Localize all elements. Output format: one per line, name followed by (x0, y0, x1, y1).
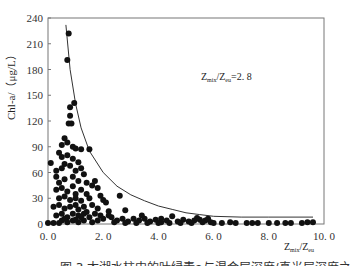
data-point (53, 212, 59, 218)
data-point (81, 204, 87, 210)
x-tick-label: 2. 0 (95, 230, 112, 242)
y-tick-label: 210 (27, 38, 44, 50)
data-point (64, 139, 70, 145)
figure-caption: 图 3 太湖水柱中的叶绿素a与混合层深度/真光层深度之比的关系图 (60, 258, 350, 266)
data-point (62, 161, 68, 167)
x-axis-label: Zmix/Zeu (284, 241, 314, 253)
data-point (67, 113, 73, 119)
annotation: Zmix/Zeu=2. 8 (201, 71, 252, 83)
data-point (299, 220, 305, 226)
data-point (304, 219, 310, 225)
data-point (111, 219, 117, 225)
data-point (86, 195, 92, 201)
data-point (310, 219, 316, 225)
data-point (75, 159, 81, 165)
y-tick-label: 240 (27, 12, 44, 24)
data-point (122, 220, 128, 226)
data-point (78, 165, 84, 171)
data-point (95, 185, 101, 191)
fit-curve (66, 25, 313, 217)
data-point (48, 160, 54, 166)
y-axis-ticks: 0306090120150180210240 (27, 12, 52, 230)
data-point (86, 146, 92, 152)
data-point (70, 156, 76, 162)
data-point (64, 188, 70, 194)
data-point (62, 194, 68, 200)
data-point (233, 220, 239, 226)
data-point (78, 187, 84, 193)
data-point (219, 220, 225, 226)
data-point (92, 178, 98, 184)
x-tick-label: 10. 0 (313, 230, 336, 242)
data-point (89, 219, 95, 225)
data-point (53, 174, 59, 180)
data-point (70, 174, 76, 180)
data-point (51, 204, 57, 210)
data-point (266, 220, 272, 226)
data-point (122, 207, 128, 213)
data-point (84, 209, 90, 215)
y-tick-label: 60 (32, 167, 44, 179)
data-point (117, 193, 123, 199)
data-point (64, 57, 70, 63)
y-tick-label: 150 (27, 89, 44, 101)
data-point (84, 180, 90, 186)
data-point (45, 220, 51, 226)
data-point (100, 216, 106, 222)
data-point (139, 212, 145, 218)
data-point (155, 220, 161, 226)
data-point (67, 204, 73, 210)
y-tick-label: 30 (32, 192, 44, 204)
data-point (56, 202, 62, 208)
data-point (78, 198, 84, 204)
data-point (62, 206, 68, 212)
data-point (205, 216, 211, 222)
data-point (59, 142, 65, 148)
data-point (73, 195, 79, 201)
data-point (56, 180, 62, 186)
data-point (73, 168, 79, 174)
data-point (106, 212, 112, 218)
data-point (89, 202, 95, 208)
data-point (68, 121, 74, 127)
data-points (45, 30, 316, 226)
data-point (227, 219, 233, 225)
data-point (133, 220, 139, 226)
data-point (144, 220, 150, 226)
y-tick-label: 180 (27, 64, 44, 76)
x-tick-label: 8. 0 (261, 230, 278, 242)
data-point (59, 211, 65, 217)
data-point (56, 195, 62, 201)
y-tick-label: 90 (32, 141, 44, 153)
data-point (92, 211, 98, 217)
data-point (166, 220, 172, 226)
data-point (70, 211, 76, 217)
data-point (244, 220, 250, 226)
data-point (59, 185, 65, 191)
data-point (78, 146, 84, 152)
data-point (274, 220, 280, 226)
data-point (169, 213, 175, 219)
data-point (51, 220, 57, 226)
x-tick-label: 4. 0 (150, 230, 167, 242)
data-point (53, 168, 59, 174)
y-tick-label: 120 (27, 115, 44, 127)
data-point (103, 200, 109, 206)
data-point (95, 206, 101, 212)
data-point (64, 152, 70, 158)
data-point (67, 104, 73, 110)
data-point (189, 220, 195, 226)
data-point (62, 216, 68, 222)
data-point (66, 30, 72, 36)
data-point (211, 220, 217, 226)
data-point (75, 178, 81, 184)
data-point (86, 214, 92, 220)
data-point (70, 183, 76, 189)
data-point (75, 206, 81, 212)
data-point (177, 220, 183, 226)
data-point (282, 220, 288, 226)
data-point (62, 176, 68, 182)
y-axis-label: Chl-a/（μg/L） (5, 49, 17, 120)
x-axis-ticks: 0. 02. 04. 06. 08. 010. 0 (40, 230, 336, 242)
